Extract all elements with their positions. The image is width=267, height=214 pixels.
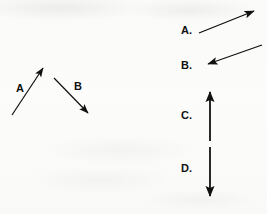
figure-canvas: A B A. B. C. D. xyxy=(0,0,267,214)
vector-arrow-svg xyxy=(0,0,267,214)
choice-b-arrow[interactable] xyxy=(208,45,262,64)
choice-a-arrow[interactable] xyxy=(199,11,254,33)
stimulus-vector-b-shaft xyxy=(54,78,88,113)
choice-label-a[interactable]: A. xyxy=(181,25,192,36)
stimulus-label-a: A xyxy=(16,83,24,94)
choice-label-d[interactable]: D. xyxy=(181,163,192,174)
choice-vector-group xyxy=(199,11,262,196)
stimulus-label-b: B xyxy=(74,81,82,92)
choice-label-c[interactable]: C. xyxy=(181,110,192,121)
choice-label-b[interactable]: B. xyxy=(181,60,192,71)
